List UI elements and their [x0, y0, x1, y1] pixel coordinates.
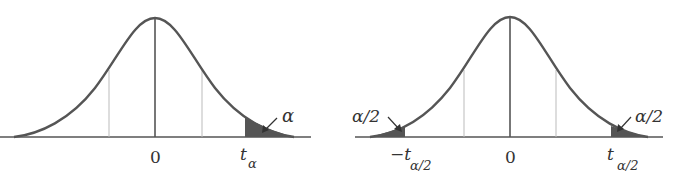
- right-density-curve: [370, 17, 648, 137]
- right-right-area-label: α/2: [635, 106, 663, 126]
- two-tailed-panel: 0 −t α/2 t α/2 α/2 α/2: [352, 17, 663, 173]
- left-center-label: 0: [150, 147, 161, 167]
- right-left-area-label: α/2: [352, 106, 380, 126]
- right-right-critical-subscript: α/2: [617, 158, 638, 173]
- one-tailed-panel: 0 t α α: [0, 18, 311, 171]
- right-center-label: 0: [505, 147, 516, 167]
- left-critical-subscript: α: [248, 156, 257, 171]
- left-critical-label: t: [240, 144, 247, 164]
- t-distribution-figure: 0 t α α 0 −t α/2 t α/2 α/2 α/2: [0, 0, 694, 181]
- right-left-critical-subscript: α/2: [410, 158, 431, 173]
- right-left-critical-label: −t: [390, 144, 411, 164]
- left-area-label: α: [282, 105, 294, 126]
- right-right-critical-label: t: [607, 144, 614, 164]
- left-density-curve: [14, 18, 294, 137]
